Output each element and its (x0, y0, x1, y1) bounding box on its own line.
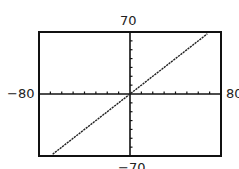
graph-screen (0, 0, 239, 169)
